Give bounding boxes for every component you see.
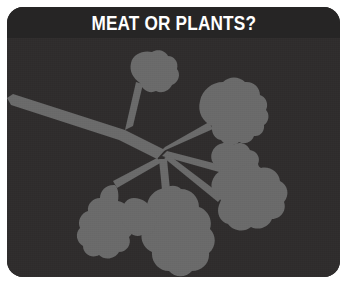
illustration-area xyxy=(7,38,340,277)
plant-branch-silhouette-icon xyxy=(7,38,340,277)
title-band: MEAT OR PLANTS? xyxy=(7,7,340,38)
poster-card: MEAT OR PLANTS? xyxy=(7,7,340,277)
page-title: MEAT OR PLANTS? xyxy=(91,13,256,33)
card-frame: MEAT OR PLANTS? xyxy=(0,0,347,284)
